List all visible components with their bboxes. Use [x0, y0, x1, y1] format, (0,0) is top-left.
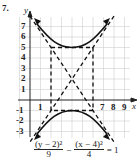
y-tick-neg3: -3	[16, 126, 24, 136]
y-axis-label: y	[24, 5, 28, 15]
y-tick-7: 7	[21, 21, 26, 31]
hyperbola-equation: (y − 2)² 9 − (x − 4)² 4 = 1	[34, 140, 118, 159]
x-tick-8: 8	[111, 102, 116, 112]
term1-denominator: 9	[46, 150, 51, 159]
grid	[19, 17, 130, 138]
term2-denominator: 4	[87, 150, 92, 159]
equation-rhs: = 1	[107, 145, 119, 155]
y-tick-1: 1	[21, 84, 26, 94]
axes	[18, 11, 137, 137]
minus-sign: −	[66, 145, 71, 155]
y-tick-6: 6	[21, 31, 26, 41]
x-tick-9: 9	[122, 102, 127, 112]
y-tick-4: 4	[21, 52, 26, 62]
x-tick-7: 7	[100, 102, 105, 112]
problem-number: 7.	[2, 3, 9, 13]
y-tick-3: 3	[21, 63, 26, 73]
y-tick-neg1: -1	[16, 105, 24, 115]
y-tick-neg2: -2	[16, 115, 24, 125]
y-tick-2: 2	[21, 73, 26, 83]
y-tick-5: 5	[21, 42, 26, 52]
x-axis-label: x	[132, 101, 136, 111]
x-tick-1: 1	[38, 102, 43, 112]
